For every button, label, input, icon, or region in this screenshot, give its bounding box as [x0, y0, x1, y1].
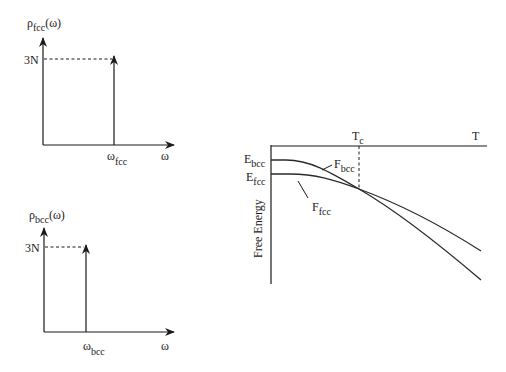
f-fcc-curve — [271, 174, 481, 251]
bcc-y-label: ρbcc(ω) — [29, 208, 65, 225]
diagram-canvas: ρfcc(ω) 3N ωfcc ω ρbcc(ω) 3N ωbcc ω Tc T… — [0, 0, 506, 372]
fcc-y-label: ρfcc(ω) — [27, 16, 61, 33]
tc-label: Tc — [352, 129, 364, 146]
fcc-dos-plot: ρfcc(ω) 3N ωfcc ω — [24, 16, 174, 167]
free-energy-axis-label: Free Energy — [251, 199, 265, 258]
e-bcc-label: Ebcc — [244, 152, 266, 169]
bcc-3n-label: 3N — [25, 241, 40, 255]
f-fcc-label: Ffcc — [312, 200, 331, 217]
fcc-omega-tick: ωfcc — [107, 149, 128, 167]
f-fcc-leader — [298, 181, 308, 198]
f-bcc-curve — [271, 160, 481, 280]
e-fcc-label: Efcc — [246, 170, 266, 187]
bcc-dos-plot: ρbcc(ω) 3N ωbcc ω — [25, 208, 174, 357]
fcc-3n-label: 3N — [24, 53, 39, 67]
bcc-x-label: ω — [161, 339, 169, 353]
f-bcc-label: Fbcc — [334, 157, 355, 174]
t-axis-label: T — [472, 129, 480, 143]
free-energy-plot: Tc T Ebcc Efcc Fbcc Ffcc Free Energy — [244, 129, 487, 284]
f-bcc-leader — [322, 165, 332, 170]
bcc-omega-tick: ωbcc — [83, 339, 105, 357]
fcc-x-label: ω — [161, 149, 169, 163]
